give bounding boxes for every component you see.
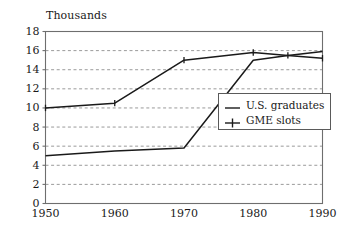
- legend-item-us-graduates: U.S. graduates: [224, 97, 324, 112]
- y-tick-label: 14: [12, 64, 40, 75]
- legend-line-icon: [224, 99, 241, 111]
- y-tick-label: 4: [12, 160, 40, 171]
- legend: U.S. graduates GME slots: [218, 93, 331, 130]
- legend-item-gme-slots: GME slots: [224, 112, 301, 127]
- y-tick-label: 16: [12, 45, 40, 56]
- legend-label: U.S. graduates: [246, 99, 324, 111]
- legend-plus-marker-icon: [224, 114, 241, 126]
- y-tick-label: 12: [12, 83, 40, 94]
- y-tick-label: 2: [12, 179, 40, 190]
- x-tick-label: 1950: [23, 208, 69, 219]
- y-tick-label: 10: [12, 102, 40, 113]
- y-tick-label: 18: [12, 26, 40, 37]
- y-tick-label: 6: [12, 141, 40, 152]
- x-tick-label: 1980: [230, 208, 276, 219]
- x-tick-label: 1960: [92, 208, 138, 219]
- x-tick-label: 1990: [300, 208, 338, 219]
- x-tick-label: 1970: [161, 208, 207, 219]
- legend-label: GME slots: [246, 114, 301, 126]
- chart-figure: Thousands 024681012141618 19501960197019…: [0, 0, 338, 227]
- y-tick-label: 8: [12, 122, 40, 133]
